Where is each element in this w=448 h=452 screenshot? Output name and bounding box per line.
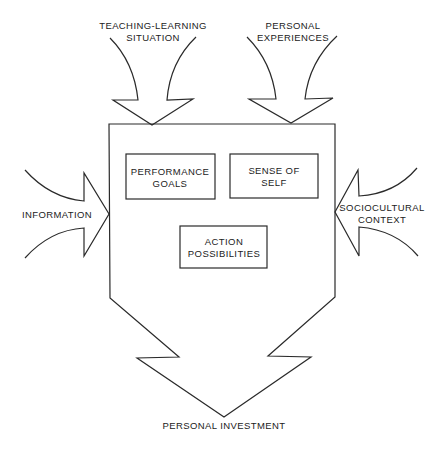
diagram-canvas	[0, 0, 448, 452]
label-sociocultural-context: SOCIOCULTURAL CONTEXT	[339, 202, 424, 225]
label-performance-goals: PERFORMANCE GOALS	[131, 166, 209, 189]
label-sense-of-self: SENSE OF SELF	[248, 165, 299, 188]
label-teaching-learning-situation: TEACHING-LEARNING SITUATION	[99, 20, 207, 43]
label-action-possibilities: ACTION POSSIBILITIES	[188, 236, 260, 259]
arrow-teaching-learning	[110, 37, 196, 125]
label-personal-investment: PERSONAL INVESTMENT	[163, 420, 286, 432]
arrow-personal-experiences	[247, 36, 337, 123]
label-information: INFORMATION	[22, 209, 92, 221]
label-personal-experiences: PERSONAL EXPERIENCES	[257, 20, 329, 43]
